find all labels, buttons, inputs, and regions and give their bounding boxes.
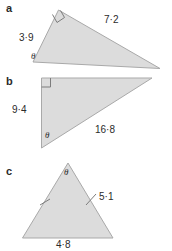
triangle-b-figure: [0, 74, 172, 159]
angle-label-a-theta: θ: [31, 52, 35, 61]
length-label-a-short-side: 3·9: [19, 33, 33, 43]
length-label-b-hypotenuse: 16·8: [95, 125, 115, 135]
triangle-a-shape: [33, 10, 160, 69]
length-label-c-equal-side: 5·1: [99, 192, 113, 202]
length-label-c-base: 4·8: [56, 240, 70, 250]
angle-label-b-theta: θ: [45, 131, 49, 140]
length-label-a-hypotenuse: 7·2: [104, 15, 118, 25]
angle-label-c-theta: θ: [64, 168, 68, 177]
triangle-c-figure: [0, 158, 172, 248]
worksheet-page: a 3·9 7·2 θ b 9·4 16·8 θ c: [0, 0, 172, 251]
length-label-b-vertical-side: 9·4: [12, 105, 26, 115]
